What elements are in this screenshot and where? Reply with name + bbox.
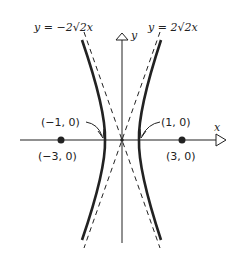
y-axis-arrow-icon <box>116 33 128 40</box>
x-axis-arrow-icon <box>216 134 226 146</box>
origin-dot <box>120 138 124 142</box>
focus-left-label: (−3, 0) <box>38 150 77 163</box>
focus-left <box>58 137 65 144</box>
vertex-right-pointer <box>142 122 160 136</box>
hyperbola-diagram: y = −2√2x y = 2√2x y x (−1, 0) (1, 0) (−… <box>0 0 234 266</box>
y-axis-label: y <box>130 29 138 42</box>
focus-right-label: (3, 0) <box>166 150 196 163</box>
vertex-right-label: (1, 0) <box>161 116 191 129</box>
vertex-left-label: (−1, 0) <box>41 116 80 129</box>
asymptote-negative-label: y = −2√2x <box>33 21 94 34</box>
focus-right <box>179 137 186 144</box>
x-axis-label: x <box>214 121 221 134</box>
asymptote-positive-label: y = 2√2x <box>147 21 198 34</box>
